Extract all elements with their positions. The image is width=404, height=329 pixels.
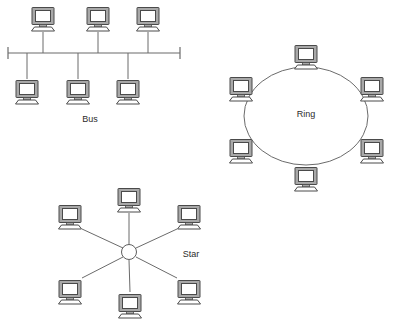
computer-node-icon[interactable] — [178, 281, 201, 305]
star-spoke-line — [82, 257, 123, 278]
ring-topology-label: Ring — [297, 109, 316, 119]
computer-node-icon[interactable] — [59, 206, 82, 230]
computer-node-icon[interactable] — [87, 8, 110, 32]
computer-node-icon[interactable] — [361, 140, 384, 164]
bus-topology-label: Bus — [82, 114, 98, 124]
star-topology-label: Star — [183, 249, 200, 259]
computer-node-icon[interactable] — [295, 168, 318, 192]
computer-node-icon[interactable] — [117, 81, 140, 105]
bus-nodes-group — [16, 8, 160, 105]
computer-node-icon[interactable] — [59, 281, 82, 305]
bus-topology-group: Bus — [8, 8, 180, 125]
computer-node-icon[interactable] — [230, 78, 253, 102]
star-spoke-line — [136, 229, 177, 248]
computer-node-icon[interactable] — [67, 81, 90, 105]
star-hub-icon[interactable] — [122, 245, 137, 260]
ring-topology-group: Ring — [230, 46, 384, 192]
computer-node-icon[interactable] — [230, 140, 253, 164]
computer-node-icon[interactable] — [118, 189, 141, 213]
computer-node-icon[interactable] — [32, 8, 55, 32]
star-topology-group: Star — [59, 189, 201, 319]
bus-drop-lines-group — [27, 32, 148, 79]
computer-node-icon[interactable] — [16, 81, 39, 105]
computer-node-icon[interactable] — [178, 206, 201, 230]
computer-node-icon[interactable] — [295, 46, 318, 70]
star-spoke-line — [82, 229, 123, 248]
computer-node-icon[interactable] — [361, 78, 384, 102]
computer-node-icon[interactable] — [119, 295, 142, 319]
diagram-canvas: Bus Ring — [0, 0, 404, 329]
star-spoke-line — [136, 257, 177, 278]
network-topology-diagram: Bus Ring — [0, 0, 404, 329]
star-spoke-line — [129, 260, 130, 292]
bus-backbone-group — [8, 47, 180, 59]
computer-node-icon[interactable] — [137, 8, 160, 32]
